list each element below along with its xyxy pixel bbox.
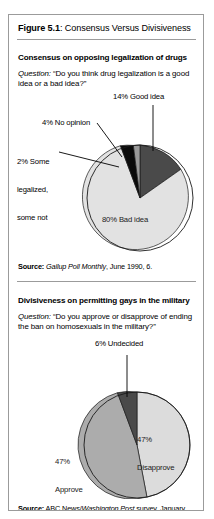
pie-chart-military: 6% Undecided 47% Disapprove 47% Approve: [9, 337, 204, 499]
section-2-source: Source: ABC News/Washington Post survey,…: [18, 504, 200, 511]
section-1-question: Question: “Do you think drug legalizatio…: [18, 69, 197, 89]
pie1-label-some-line2: legalized,: [17, 185, 49, 194]
pie1-label-some-line3: some not: [17, 213, 49, 222]
pie2-label-disapprove-line1: 47%: [137, 435, 199, 444]
pie-chart-drugs: 14% Good idea 4% No opinion 2% Some lega…: [9, 91, 204, 256]
figure-number: Figure 5.1: [18, 23, 60, 33]
pie2-label-disapprove-line2: Disapprove: [137, 463, 199, 472]
section-2-heading: Divisiveness on permitting gays in the m…: [18, 296, 198, 306]
pie1-label-some-legalized: 2% Some legalized, some not: [17, 138, 49, 241]
source-italic-1: Gallup Poll Monthly: [46, 262, 106, 271]
section-1-heading: Consensus on opposing legalization of dr…: [18, 53, 198, 63]
source-post-1: , June 1990, 6.: [106, 262, 152, 271]
section-divider: [17, 281, 196, 282]
pie1-label-no-opinion: 4% No opinion: [42, 118, 90, 127]
source-label-2: Source:: [18, 504, 44, 511]
pie1-label-good-idea: 14% Good idea: [113, 92, 164, 101]
title-divider: [17, 39, 196, 40]
pie2-label-approve-line1: 47%: [55, 457, 117, 466]
source-label-1: Source:: [18, 262, 44, 271]
question-label-2: Question:: [18, 312, 51, 321]
pie2-label-disapprove: 47% Disapprove: [137, 416, 199, 491]
figure-box: Figure 5.1: Consensus Versus Divisivenes…: [8, 14, 204, 511]
pie1-label-some-line1: 2% Some: [17, 157, 49, 166]
pie2-label-undecided: 6% Undecided: [95, 339, 143, 348]
question-label-1: Question:: [18, 69, 51, 78]
source-italic-2a: Washington Post: [82, 504, 135, 511]
figure-title: Figure 5.1: Consensus Versus Divisivenes…: [18, 23, 198, 34]
pie2-label-approve-line2: Approve: [55, 485, 117, 494]
section-2-question: Question: “Do you approve or disapprove …: [18, 312, 197, 332]
pie1-label-bad-idea: 80% Bad idea: [80, 215, 170, 224]
figure-title-text: Consensus Versus Divisiveness: [65, 23, 191, 33]
section-1-source: Source: Gallup Poll Monthly, June 1990, …: [18, 262, 200, 272]
pie2-label-approve: 47% Approve: [55, 438, 117, 511]
source-pre-2: ABC News/: [44, 504, 81, 511]
